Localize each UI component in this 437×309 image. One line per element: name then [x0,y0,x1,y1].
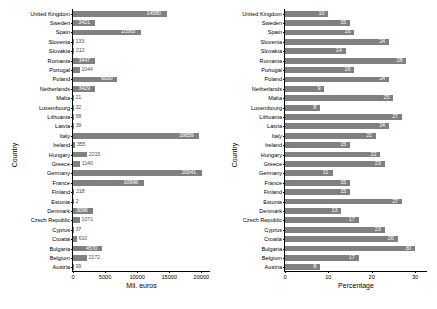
bar-row: Luxembourg32 [73,105,210,111]
bar [73,114,74,120]
bar-value-label: 15 [340,20,346,26]
bar [285,77,389,83]
bar-row: United Kingdom14580 [73,11,210,17]
y-axis-tick-label: Romania [48,58,70,64]
bar-row: Czech Republic17 [285,217,427,223]
y-axis-tick-label: Czech Republic [31,217,70,223]
x-axis-left: Mil. euros 05000100001500020000 [73,271,210,295]
bar-row: France10996 [73,180,210,186]
y-axis-tick-label: Poland [53,76,70,82]
bar-row: France15 [285,180,427,186]
bar-row: Finland218 [73,189,210,195]
bar-value-label: 15 [340,142,346,148]
bar [73,152,87,158]
bar-value-label: 3421 [78,20,89,26]
bar-value-label: 14 [336,49,342,55]
bar-value-label: 21 [76,95,82,101]
bar-value-label: 20041 [182,171,196,177]
bar-row: Denmark3096 [73,208,210,214]
y-axis-tick-label: Croatia [52,236,70,242]
y-axis-tick-label: Austria [53,264,70,270]
bar-value-label: 212 [76,49,85,55]
bar-row: Greece23 [285,161,427,167]
y-axis-tick-label: Sweden [262,20,282,26]
bar-value-label: 10996 [124,180,138,186]
bar-row: Slovenia133 [73,39,210,45]
y-axis-tick-label: Germany [47,170,70,176]
bar [73,236,77,242]
bar [285,95,393,101]
x-axis-tick-mark [137,271,138,273]
bar-value-label: 1140 [82,161,93,167]
bar-row: Latvia39 [73,123,210,129]
bar-row: Germany20041 [73,170,210,176]
bar-row: Ireland355 [73,142,210,148]
y-axis-tick-label: Poland [265,76,282,82]
bar-value-label: 23 [375,161,381,167]
y-axis-tick-label: Hungary [261,152,282,158]
bar-row: Sweden15 [285,20,427,26]
bar-row: Slovenia24 [285,39,427,45]
y-axis-tick-label: Hungary [49,152,70,158]
bar-row: Poland24 [285,77,427,83]
y-axis-tick-label: Slovakia [49,48,70,54]
bar-rows-left: United Kingdom14580Sweden3421Spain10565S… [73,9,210,271]
bar-value-label: 1071 [81,218,92,224]
bar-value-label: 16 [345,30,351,36]
bar-value-label: 14580 [147,11,161,17]
bar-row: Italy19659 [73,133,210,139]
y-axis-tick-label: Greece [52,161,70,167]
bar-row: Belgium2172 [73,255,210,261]
bar [73,123,74,129]
x-axis-tick-mark [201,271,202,273]
x-axis-tick-mark [73,271,74,273]
plot-area-left: United Kingdom14580Sweden3421Spain10565S… [72,9,210,272]
bar [285,255,359,261]
bar-value-label: 6930 [101,77,112,83]
y-axis-tick-label: Lithuania [259,114,282,120]
y-axis-tick-label: Portugal [261,67,282,73]
bar [285,161,385,167]
y-axis-tick-label: Slovakia [261,48,282,54]
y-axis-tick-label: Ireland [265,142,282,148]
bar-value-label: 218 [76,189,85,195]
bar-row: Cyprus37 [73,227,210,233]
bar-rows-right: United Kingdom10Sweden15Spain16Slovenia2… [285,9,427,271]
y-axis-tick-label: Malta [268,95,282,101]
chart-panel-percentage: Country United Kingdom10Sweden15Spain16S… [220,0,437,309]
bar-row: Malta25 [285,95,427,101]
bar-value-label: 8 [313,105,316,111]
y-axis-tick-label: Italy [272,133,282,139]
y-axis-tick-label: United Kingdom [30,11,70,17]
bar-value-label: 26 [388,236,394,242]
y-axis-tick-label: Slovenia [49,39,70,45]
y-axis-tick-label: Estonia [263,199,282,205]
bar-value-label: 9 [318,86,321,92]
bar [73,95,74,101]
dual-bar-chart-figure: Country United Kingdom14580Sweden3421Spa… [0,0,437,309]
x-axis-tick-label: 20 [369,274,375,280]
bar-row: Germany11 [285,170,427,176]
bar-row: Belgium17 [285,255,427,261]
bar [73,67,80,73]
bar-value-label: 133 [76,39,85,45]
bar-value-label: 37 [76,227,82,233]
bar-row: Netherlands9 [285,86,427,92]
plot-area-right: United Kingdom10Sweden15Spain16Slovenia2… [284,9,427,272]
bar-row: Latvia24 [285,123,427,129]
x-axis-tick-label: 5000 [99,274,111,280]
bar-value-label: 32 [76,105,82,111]
y-axis-tick-label: Lithuania [47,114,70,120]
y-axis-tick-label: Cyprus [264,227,282,233]
bar-value-label: 23 [375,227,381,233]
bar-value-label: 15 [340,180,346,186]
bar [285,133,376,139]
y-axis-tick-label: Netherlands [40,86,70,92]
bar-value-label: 17 [349,255,355,261]
x-axis-label-left: Mil. euros [73,282,210,289]
y-axis-tick-label: Bulgaria [261,246,282,252]
x-axis-right: Percentage 0102030 [285,271,427,295]
bar-row: Slovakia212 [73,48,210,54]
y-axis-tick-label: Netherlands [252,86,282,92]
bar [285,217,359,223]
